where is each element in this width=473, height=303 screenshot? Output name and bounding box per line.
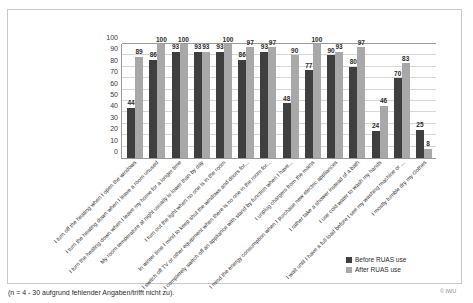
bar-group: 86100 bbox=[146, 44, 168, 158]
y-tick-label: 70 bbox=[110, 68, 118, 75]
bar-value-label: 93 bbox=[172, 44, 179, 51]
bar-groups: 4489861009310093939310086979397489077100… bbox=[122, 44, 436, 158]
y-tick-label: 90 bbox=[110, 45, 118, 52]
bar-value-label: 46 bbox=[380, 98, 387, 105]
legend-entry: After RUAS use bbox=[346, 266, 406, 273]
bar-value-label: 24 bbox=[372, 123, 379, 130]
bar-value-label: 93 bbox=[202, 44, 209, 51]
bar-group: 93100 bbox=[168, 44, 190, 158]
bar-value-label: 90 bbox=[327, 48, 334, 55]
legend-swatch bbox=[346, 267, 352, 273]
figure-caption: (n = 4 - 30 aufgrund fehlender Angaben/t… bbox=[8, 289, 174, 296]
bar-group: 77100 bbox=[302, 44, 324, 158]
bar: 46 bbox=[380, 106, 388, 158]
bar-value-label: 100 bbox=[178, 37, 189, 44]
bar: 100 bbox=[224, 44, 232, 158]
legend-label: Before RUAS use bbox=[355, 256, 406, 263]
bar-value-label: 48 bbox=[283, 96, 290, 103]
y-tick-label: 20 bbox=[110, 125, 118, 132]
chart-frame: 1009080706050403020100 44898610093100939… bbox=[7, 9, 462, 284]
bar: 97 bbox=[246, 47, 254, 158]
legend-swatch bbox=[346, 257, 352, 263]
bar: 80 bbox=[349, 67, 357, 158]
y-tick-label: 80 bbox=[110, 56, 118, 63]
bar-group: 8697 bbox=[235, 44, 257, 158]
legend-entry: Before RUAS use bbox=[346, 256, 406, 263]
bar: 100 bbox=[157, 44, 165, 158]
bar-value-label: 93 bbox=[335, 44, 342, 51]
bar: 93 bbox=[216, 52, 224, 158]
bar: 24 bbox=[372, 131, 380, 158]
bar-value-label: 93 bbox=[216, 44, 223, 51]
bar: 93 bbox=[202, 52, 210, 158]
y-tick-label: 10 bbox=[110, 136, 118, 143]
bar-value-label: 89 bbox=[135, 49, 142, 56]
bar-value-label: 77 bbox=[305, 63, 312, 70]
bar: 97 bbox=[268, 47, 276, 158]
bar-value-label: 100 bbox=[311, 37, 322, 44]
bar-value-label: 86 bbox=[150, 52, 157, 59]
bar-value-label: 44 bbox=[127, 100, 134, 107]
bar-value-label: 25 bbox=[416, 122, 423, 129]
y-tick-label: 100 bbox=[106, 34, 118, 41]
bar-group: 9093 bbox=[324, 44, 346, 158]
x-tick-label: I turn off the heating when I open the w… bbox=[54, 160, 139, 245]
bar-value-label: 100 bbox=[156, 37, 167, 44]
bar-value-label: 97 bbox=[358, 40, 365, 47]
bar: 83 bbox=[402, 63, 410, 158]
bar: 93 bbox=[194, 52, 202, 158]
bar-group: 9393 bbox=[191, 44, 213, 158]
bar: 77 bbox=[305, 70, 313, 158]
bar: 93 bbox=[172, 52, 180, 158]
bar-value-label: 90 bbox=[291, 48, 298, 55]
bar-group: 2446 bbox=[368, 44, 390, 158]
bar: 93 bbox=[335, 52, 343, 158]
bar-value-label: 70 bbox=[394, 71, 401, 78]
y-tick-label: 50 bbox=[110, 91, 118, 98]
bar: 90 bbox=[291, 55, 299, 158]
bar: 70 bbox=[394, 78, 402, 158]
bar-group: 4890 bbox=[280, 44, 302, 158]
bar: 100 bbox=[180, 44, 188, 158]
bar: 86 bbox=[238, 60, 246, 158]
bar: 48 bbox=[283, 103, 291, 158]
legend-label: After RUAS use bbox=[355, 266, 401, 273]
bar-value-label: 86 bbox=[239, 52, 246, 59]
bar: 100 bbox=[313, 44, 321, 158]
bar-group: 258 bbox=[413, 44, 435, 158]
bar-value-label: 93 bbox=[261, 44, 268, 51]
chart-legend: Before RUAS useAfter RUAS use bbox=[346, 256, 406, 276]
bar: 90 bbox=[327, 55, 335, 158]
bar: 89 bbox=[135, 57, 143, 158]
bar: 8 bbox=[424, 149, 432, 158]
bar-value-label: 83 bbox=[402, 56, 409, 63]
bar: 44 bbox=[127, 108, 135, 158]
bar-group: 7083 bbox=[391, 44, 413, 158]
bar-value-label: 80 bbox=[350, 59, 357, 66]
bar-value-label: 97 bbox=[269, 40, 276, 47]
bar-group: 93100 bbox=[213, 44, 235, 158]
y-tick-label: 60 bbox=[110, 79, 118, 86]
bar-value-label: 100 bbox=[223, 37, 234, 44]
y-tick-label: 40 bbox=[110, 102, 118, 109]
bar: 97 bbox=[357, 47, 365, 158]
plot-area: 1009080706050403020100 44898610093100939… bbox=[121, 44, 436, 159]
bar: 93 bbox=[260, 52, 268, 158]
bar-value-label: 97 bbox=[247, 40, 254, 47]
bar-value-label: 8 bbox=[426, 141, 430, 148]
bar-group: 9397 bbox=[257, 44, 279, 158]
copyright-mark: © IWU bbox=[440, 288, 456, 294]
y-tick-label: 0 bbox=[114, 148, 118, 155]
bar: 25 bbox=[416, 130, 424, 159]
bar-value-label: 93 bbox=[194, 44, 201, 51]
bar-group: 4489 bbox=[124, 44, 146, 158]
y-tick-label: 30 bbox=[110, 113, 118, 120]
bar-group: 8097 bbox=[346, 44, 368, 158]
bar: 86 bbox=[149, 60, 157, 158]
